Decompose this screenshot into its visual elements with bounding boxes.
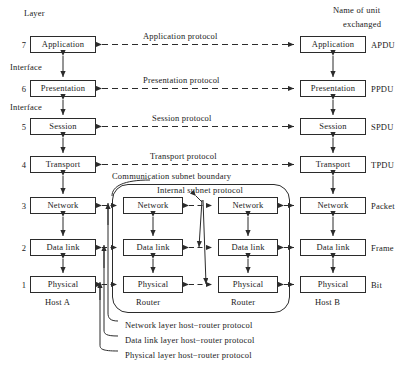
host-router-protocol-data-link: Data link layer host−router protocol [125,336,255,345]
host-a-layer-application[interactable]: Application [30,36,96,53]
router-2-label: Router [231,298,255,307]
host-a-layer-transport[interactable]: Transport [30,156,96,173]
router-1-layer-network[interactable]: Network [123,197,183,214]
host-b-layer-application[interactable]: Application [300,36,366,53]
layer-number-7: 7 [14,41,26,50]
host-a-label: Host A [45,298,70,307]
layer-number-1: 1 [14,281,26,290]
host-b-layer-data-link[interactable]: Data link [300,239,366,256]
protocol-label-application: Application protocol [143,32,218,41]
peer-protocol-dashed-lines [102,45,294,165]
unit-name-packet: Packet [371,202,395,211]
unit-name-apdu: APDU [371,41,395,50]
host-b-layer-session[interactable]: Session [300,118,366,135]
osi-reference-model-diagram: Layer Name of unit exchanged 7 6 5 4 3 2… [0,0,403,368]
host-b-layer-network[interactable]: Network [300,197,366,214]
router-1-layer-data-link[interactable]: Data link [123,239,183,256]
unit-name-tpdu: TPDU [371,161,394,170]
host-a-layer-presentation[interactable]: Presentation [30,80,96,97]
protocol-label-presentation: Presentation protocol [143,76,220,85]
layer-number-3: 3 [14,202,26,211]
host-b-layer-transport[interactable]: Transport [300,156,366,173]
protocol-label-session: Session protocol [152,114,212,123]
router-1-layer-physical[interactable]: Physical [123,276,183,293]
protocol-label-transport: Transport protocol [150,152,217,161]
interface-label-6-5: Interface [10,103,42,112]
host-a-layer-session[interactable]: Session [30,118,96,135]
host-a-layer-physical[interactable]: Physical [30,276,96,293]
host-router-protocol-physical: Physical layer host−router protocol [125,351,252,360]
host-a-layer-data-link[interactable]: Data link [30,239,96,256]
layer-number-6: 6 [14,85,26,94]
host-router-tap-arrowheads [100,203,108,300]
communication-subnet-boundary-label: Communication subnet boundary [112,172,231,181]
unit-name-bit: Bit [371,281,382,290]
router-2-layer-physical[interactable]: Physical [218,276,278,293]
layer-number-5: 5 [14,123,26,132]
host-b-layer-physical[interactable]: Physical [300,276,366,293]
unit-column-heading-line1: Name of unit [333,6,380,15]
unit-name-frame: Frame [371,244,394,253]
layer-column-heading: Layer [24,9,45,18]
unit-column-heading-line2: exchanged [343,20,381,29]
host-b-layer-presentation[interactable]: Presentation [300,80,366,97]
host-router-protocol-network: Network layer host−router protocol [125,321,253,330]
layer-number-2: 2 [14,244,26,253]
unit-name-spdu: SPDU [371,123,394,132]
host-a-layer-network[interactable]: Network [30,197,96,214]
router-2-layer-network[interactable]: Network [218,197,278,214]
router-2-layer-data-link[interactable]: Data link [218,239,278,256]
interface-label-7-6: Interface [10,63,42,72]
layer-number-4: 4 [14,161,26,170]
router-1-label: Router [136,298,160,307]
host-b-label: Host B [315,298,340,307]
unit-name-ppdu: PPDU [371,85,394,94]
